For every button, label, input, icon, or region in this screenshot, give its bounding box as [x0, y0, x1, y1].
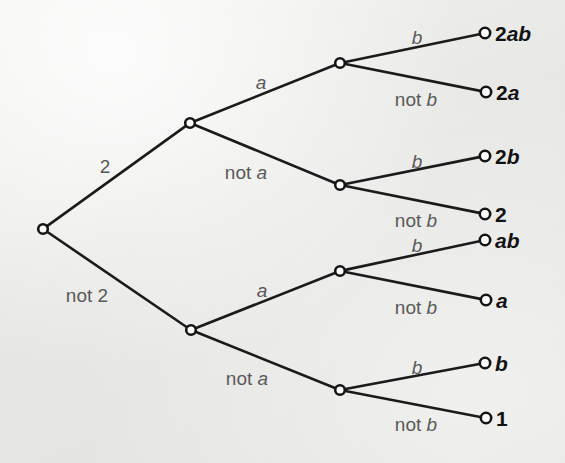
tree-edge — [196, 332, 335, 388]
nodes-group — [38, 28, 491, 423]
tree-edge — [195, 125, 335, 183]
tree-node — [186, 325, 196, 335]
tree-edge — [345, 272, 480, 299]
tree-node — [480, 209, 490, 219]
tree-edge — [196, 273, 335, 328]
tree-diagram-figure: 2not 2anot aanot abnot bbnot bbnot bbnot… — [0, 0, 565, 463]
tree-node — [335, 385, 345, 395]
tree-edge — [345, 34, 479, 62]
tree-graph-canvas — [0, 0, 565, 463]
tree-node — [335, 58, 345, 68]
tree-node — [480, 28, 490, 38]
tree-node — [480, 358, 490, 368]
tree-node — [335, 180, 345, 190]
tree-edge — [47, 232, 186, 327]
tree-node — [480, 235, 490, 245]
tree-edge — [195, 65, 335, 121]
tree-edge — [345, 391, 480, 417]
tree-node — [185, 118, 195, 128]
tree-node — [481, 87, 491, 97]
tree-edge — [345, 157, 479, 184]
tree-node — [335, 266, 345, 276]
tree-edge — [345, 364, 479, 389]
tree-node — [38, 224, 48, 234]
tree-edge — [47, 126, 185, 226]
tree-edge — [345, 241, 479, 270]
edges-group — [47, 34, 480, 417]
tree-node — [480, 151, 490, 161]
tree-node — [481, 295, 491, 305]
tree-edge — [345, 186, 479, 213]
tree-edge — [345, 64, 480, 91]
tree-node — [481, 413, 491, 423]
